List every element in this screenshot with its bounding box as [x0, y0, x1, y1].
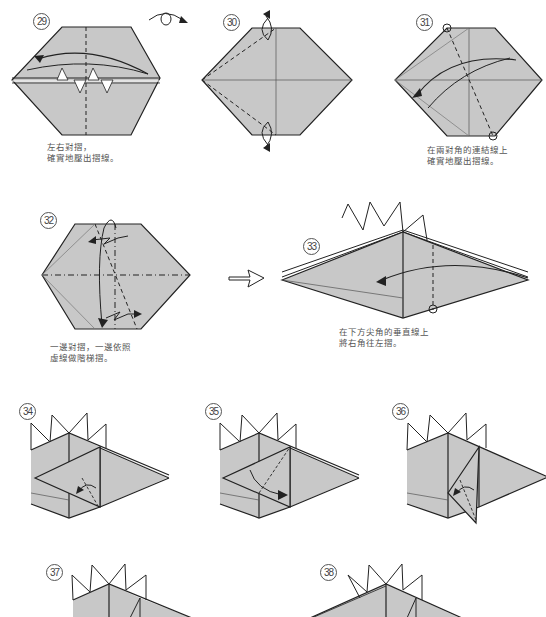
step-number: 37 — [46, 564, 63, 581]
step-32: 32 一邊對摺，一邊依照 虛線做階梯摺。 — [20, 200, 200, 370]
step-number: 29 — [33, 13, 50, 30]
step-36: 36 — [380, 390, 546, 550]
step-number: 34 — [19, 403, 36, 420]
step-38-diagram — [310, 560, 546, 617]
step-30-diagram — [190, 0, 370, 170]
step-caption: 左右對摺， 確實地壓出摺線。 — [47, 142, 119, 164]
step-number: 31 — [416, 14, 433, 31]
next-step-arrow — [228, 265, 268, 295]
step-31: 31 在兩對角的連結線上 確實地壓出摺線。 — [370, 0, 546, 170]
step-number: 38 — [320, 564, 337, 581]
step-35: 35 — [190, 390, 380, 550]
step-34: 34 — [0, 390, 200, 550]
step-number: 33 — [303, 238, 320, 255]
step-37: 37 — [40, 560, 200, 617]
step-caption: 在兩對角的連結線上 確實地壓出摺線。 — [427, 145, 508, 167]
step-number: 30 — [223, 14, 240, 31]
step-37-diagram — [40, 560, 200, 617]
turn-over-symbol — [145, 10, 195, 30]
hollow-right-arrow-icon — [228, 265, 268, 295]
step-38: 38 — [310, 560, 546, 617]
step-33: 33 在下方尖角的垂直線上 將右角往左摺。 — [290, 210, 546, 360]
step-caption: 在下方尖角的垂直線上 將右角往左摺。 — [339, 327, 429, 349]
step-number: 32 — [40, 212, 57, 229]
turn-over-icon — [145, 10, 195, 30]
step-caption: 一邊對摺，一邊依照 虛線做階梯摺。 — [50, 342, 131, 364]
step-number: 36 — [392, 403, 409, 420]
step-number: 35 — [205, 403, 222, 420]
step-30: 30 — [190, 0, 370, 170]
